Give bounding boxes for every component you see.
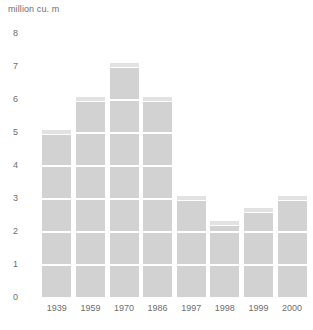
bar-gridlines: [42, 130, 71, 297]
y-axis-tick-label: 4: [0, 161, 18, 170]
x-axis-tick-label: 1986: [141, 303, 175, 313]
bar-2000: [278, 196, 307, 297]
y-axis-tick-label: 2: [0, 227, 18, 236]
x-axis-tick-label: 1970: [107, 303, 141, 313]
bar-1939: [42, 130, 71, 297]
bar-1986: [143, 97, 172, 297]
x-axis-tick-label: 1959: [74, 303, 108, 313]
bar-cap: [177, 196, 206, 201]
x-axis-tick-label: 1997: [174, 303, 208, 313]
bar-1999: [244, 208, 273, 297]
bar-cap: [42, 130, 71, 135]
bar-gridlines: [110, 63, 139, 297]
x-axis-tick-label: 2000: [275, 303, 309, 313]
bar-1959: [76, 97, 105, 297]
y-axis-tick-label: 0: [0, 293, 18, 302]
plot-area: 0123456781939195919701986199719981999200…: [0, 0, 313, 330]
x-axis-tick-label: 1999: [242, 303, 276, 313]
bar-gridlines: [244, 208, 273, 297]
y-axis-tick-label: 5: [0, 128, 18, 137]
y-axis-tick-label: 3: [0, 194, 18, 203]
y-axis-tick-label: 1: [0, 260, 18, 269]
y-axis-tick-label: 7: [0, 62, 18, 71]
bar-cap: [278, 196, 307, 201]
bar-1997: [177, 196, 206, 297]
y-axis-tick-label: 8: [0, 29, 18, 38]
bar-cap: [143, 97, 172, 102]
bar-gridlines: [76, 97, 105, 297]
x-axis-tick-label: 1939: [40, 303, 74, 313]
bar-1998: [210, 221, 239, 297]
bar-cap: [110, 63, 139, 68]
bar-gridlines: [143, 97, 172, 297]
bar-cap: [76, 97, 105, 102]
bar-cap: [244, 208, 273, 213]
x-axis-tick-label: 1998: [208, 303, 242, 313]
bar-1970: [110, 63, 139, 297]
bar-chart: million cu. m 01234567819391959197019861…: [0, 0, 313, 330]
bar-gridlines: [177, 196, 206, 297]
y-axis-tick-label: 6: [0, 95, 18, 104]
bar-cap: [210, 221, 239, 226]
bar-gridlines: [210, 221, 239, 297]
bar-gridlines: [278, 196, 307, 297]
